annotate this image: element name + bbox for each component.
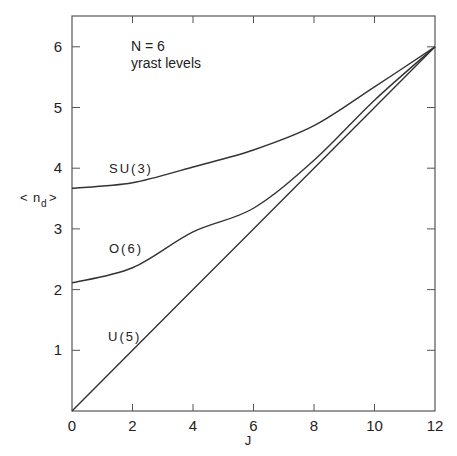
y-axis-title: < n d >: [20, 190, 57, 209]
svg-text:n: n: [33, 190, 40, 205]
x-tick-label: 6: [249, 417, 257, 434]
y-tick-label: 6: [54, 38, 62, 55]
label-su3: SU(3): [109, 161, 153, 176]
label-o6: O(6): [109, 241, 143, 256]
plot-frame: [72, 16, 435, 411]
curve-u5: [72, 47, 435, 411]
x-tick-label: 12: [427, 417, 444, 434]
svg-text:<: <: [20, 190, 28, 205]
chart: 024681012123456 N = 6 yrast levels SU(3)…: [0, 0, 457, 456]
svg-text:>: >: [49, 190, 57, 205]
x-tick-label: 10: [366, 417, 383, 434]
svg-text:d: d: [41, 198, 47, 209]
label-u5: U(5): [108, 329, 141, 344]
x-tick-label: 4: [189, 417, 197, 434]
axis-ticks: [72, 16, 435, 411]
y-tick-label: 3: [54, 220, 62, 237]
x-tick-label: 0: [68, 417, 76, 434]
x-tick-label: 8: [310, 417, 318, 434]
x-axis-title: J: [245, 433, 252, 448]
y-tick-label: 5: [54, 99, 62, 116]
y-tick-label: 4: [54, 159, 62, 176]
y-tick-label: 2: [54, 281, 62, 298]
x-tick-label: 2: [128, 417, 136, 434]
annotation-yrast: yrast levels: [131, 55, 201, 71]
annotation-n: N = 6: [131, 38, 165, 54]
curves: [72, 47, 435, 411]
y-tick-label: 1: [54, 341, 62, 358]
